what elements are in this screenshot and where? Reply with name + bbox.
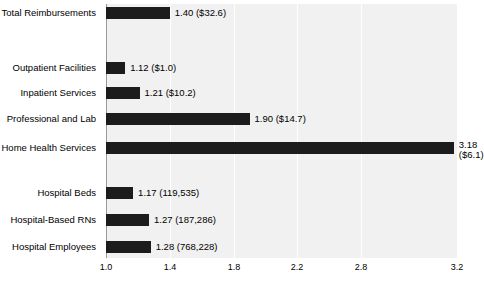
bar xyxy=(106,62,125,74)
bar-row: Inpatient Services1.21 ($10.2) xyxy=(0,86,466,100)
category-label: Inpatient Services xyxy=(0,86,96,100)
bar-row: Home Health Services3.18($6.1) xyxy=(0,141,466,155)
bar xyxy=(106,7,170,19)
value-label: 1.12 ($1.0) xyxy=(130,61,176,74)
value-label: 1.27 (187,286) xyxy=(154,213,216,226)
category-label: Hospital-Based RNs xyxy=(0,213,96,227)
category-label: Hospital Employees xyxy=(0,240,96,254)
x-tick-label: 3.2 xyxy=(451,262,464,272)
bar xyxy=(106,241,151,253)
value-label: 1.40 ($32.6) xyxy=(175,6,226,19)
value-label-line2: ($6.1) xyxy=(459,150,484,160)
x-tick-label: 1.8 xyxy=(228,262,241,272)
x-tick-label: 2.2 xyxy=(291,262,304,272)
bar xyxy=(106,87,140,99)
x-tick-label: 1.4 xyxy=(164,262,177,272)
bar xyxy=(106,142,454,154)
bar-row: Professional and Lab1.90 ($14.7) xyxy=(0,112,466,126)
value-label: 1.21 ($10.2) xyxy=(145,86,196,99)
bar xyxy=(106,113,250,125)
value-label: 1.17 (119,535) xyxy=(138,186,199,199)
x-tick-label: 2.8 xyxy=(355,262,368,272)
bar-row: Hospital-Based RNs1.27 (187,286) xyxy=(0,213,466,227)
category-label: Outpatient Facilities xyxy=(0,61,96,75)
bar-row: Outpatient Facilities1.12 ($1.0) xyxy=(0,61,466,75)
category-label: Hospital Beds xyxy=(0,186,96,200)
bar xyxy=(106,187,133,199)
x-tick-label: 1.0 xyxy=(100,262,113,272)
bar-row: Total Reimbursements1.40 ($32.6) xyxy=(0,6,466,20)
value-label: 1.90 ($14.7) xyxy=(255,112,306,125)
bar xyxy=(106,214,149,226)
bar-row: Hospital Employees1.28 (768,228) xyxy=(0,240,466,254)
value-label: 3.18($6.1) xyxy=(459,140,484,160)
category-label: Total Reimbursements xyxy=(0,6,96,20)
value-label: 1.28 (768,228) xyxy=(156,240,218,253)
category-label: Home Health Services xyxy=(0,141,96,155)
bar-row: Hospital Beds1.17 (119,535) xyxy=(0,186,466,200)
category-label: Professional and Lab xyxy=(0,112,96,126)
